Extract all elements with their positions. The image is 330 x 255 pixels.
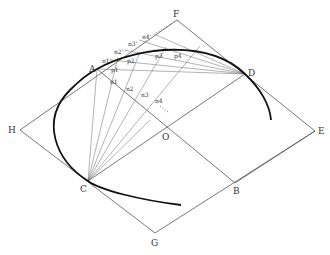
label-p4: p4 <box>174 52 182 60</box>
line-BE-side <box>235 131 315 183</box>
label-n4: n4 <box>155 97 163 104</box>
conic-construction-diagram: A B C D E F G H O n1' n2' n3' n4' p1 p2 … <box>0 0 330 255</box>
label-p2: p2 <box>127 57 135 65</box>
label-p1: p1 <box>111 66 119 74</box>
label-E: E <box>318 126 325 136</box>
line-DOC <box>88 74 245 181</box>
conic-curve <box>54 50 271 205</box>
label-B: B <box>233 186 240 196</box>
line-AOB <box>97 69 235 183</box>
label-n1: n1 <box>110 78 118 85</box>
label-O: O <box>162 132 169 142</box>
label-A: A <box>88 64 96 74</box>
label-n4-prime: n4' <box>142 33 152 40</box>
label-D: D <box>248 68 255 78</box>
label-G: G <box>151 238 158 248</box>
inner-lines <box>88 69 315 183</box>
label-n2-prime: n2' <box>114 48 124 55</box>
edge-HF <box>20 20 177 130</box>
label-n3: n3 <box>141 91 149 98</box>
label-n3-prime: n3' <box>128 40 138 47</box>
label-H: H <box>8 125 16 135</box>
rays-from-C <box>88 46 200 181</box>
label-p3: p3 <box>155 52 163 60</box>
label-n1-prime: n1' <box>102 57 112 64</box>
label-F: F <box>173 9 179 19</box>
label-C: C <box>80 184 87 194</box>
label-n2: n2 <box>126 85 134 92</box>
